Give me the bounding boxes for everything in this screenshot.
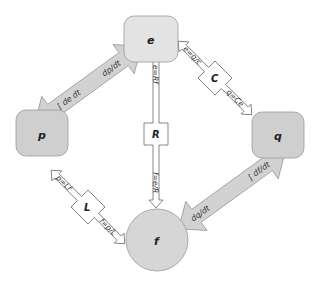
node-e: e <box>124 16 178 62</box>
node-p-label: p <box>37 129 46 142</box>
node-q: q <box>252 112 304 158</box>
node-e-label: e <box>147 34 155 47</box>
element-L-label: L <box>84 202 90 213</box>
node-p: p <box>16 110 68 156</box>
element-R: R e=Rf f=e/R <box>144 52 168 208</box>
node-f: f <box>126 209 188 271</box>
element-C: C e=q/c q=Ce <box>170 33 261 124</box>
element-R-label: R <box>152 129 160 140</box>
element-L: L p=Lf f=p/L <box>43 162 134 253</box>
equation-f-eq-e-over-R: f=e/R <box>151 172 160 193</box>
equation-e-eq-Rf: e=Rf <box>151 65 160 85</box>
diagram-svg: ∫ de dt dp/dt dq/dt ∫ df/dt R e=Rf f=e/R… <box>0 0 315 283</box>
node-q-label: q <box>274 130 282 143</box>
element-C-label: C <box>211 73 219 84</box>
diagram-canvas: ∫ de dt dp/dt dq/dt ∫ df/dt R e=Rf f=e/R… <box>0 0 315 283</box>
